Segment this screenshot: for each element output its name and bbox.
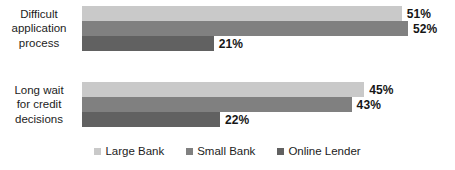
grouped-bar-chart: Difficult application process 51% 52% 21… <box>0 0 455 170</box>
category-label: Long wait for credit decisions <box>2 83 76 127</box>
legend-item-small-bank[interactable]: Small Bank <box>186 145 255 157</box>
category-group: Long wait for credit decisions 45% 43% 2… <box>0 82 455 127</box>
category-group: Difficult application process 51% 52% 21… <box>0 6 455 51</box>
bar-value-label: 21% <box>219 37 243 51</box>
bar-large-bank[interactable] <box>82 6 402 21</box>
legend-item-online-lender[interactable]: Online Lender <box>277 145 360 157</box>
bar-value-label: 52% <box>413 22 437 36</box>
bar-small-bank[interactable] <box>82 21 408 36</box>
bar-value-label: 22% <box>225 113 249 127</box>
bar-large-bank[interactable] <box>82 82 364 97</box>
bar-value-label: 51% <box>407 7 431 21</box>
legend-swatch-icon <box>94 148 101 155</box>
chart-legend: Large Bank Small Bank Online Lender <box>0 145 455 157</box>
bar-online-lender[interactable] <box>82 36 214 51</box>
bar-online-lender[interactable] <box>82 112 220 127</box>
legend-swatch-icon <box>186 148 193 155</box>
bar-value-label: 43% <box>357 98 381 112</box>
legend-item-large-bank[interactable]: Large Bank <box>94 145 164 157</box>
plot-area: Difficult application process 51% 52% 21… <box>0 0 455 136</box>
legend-swatch-icon <box>277 148 284 155</box>
legend-item-label: Large Bank <box>105 145 164 157</box>
legend-item-label: Online Lender <box>288 145 360 157</box>
bar-value-label: 45% <box>369 83 393 97</box>
category-label: Difficult application process <box>2 7 76 51</box>
bar-small-bank[interactable] <box>82 97 352 112</box>
legend-item-label: Small Bank <box>197 145 255 157</box>
